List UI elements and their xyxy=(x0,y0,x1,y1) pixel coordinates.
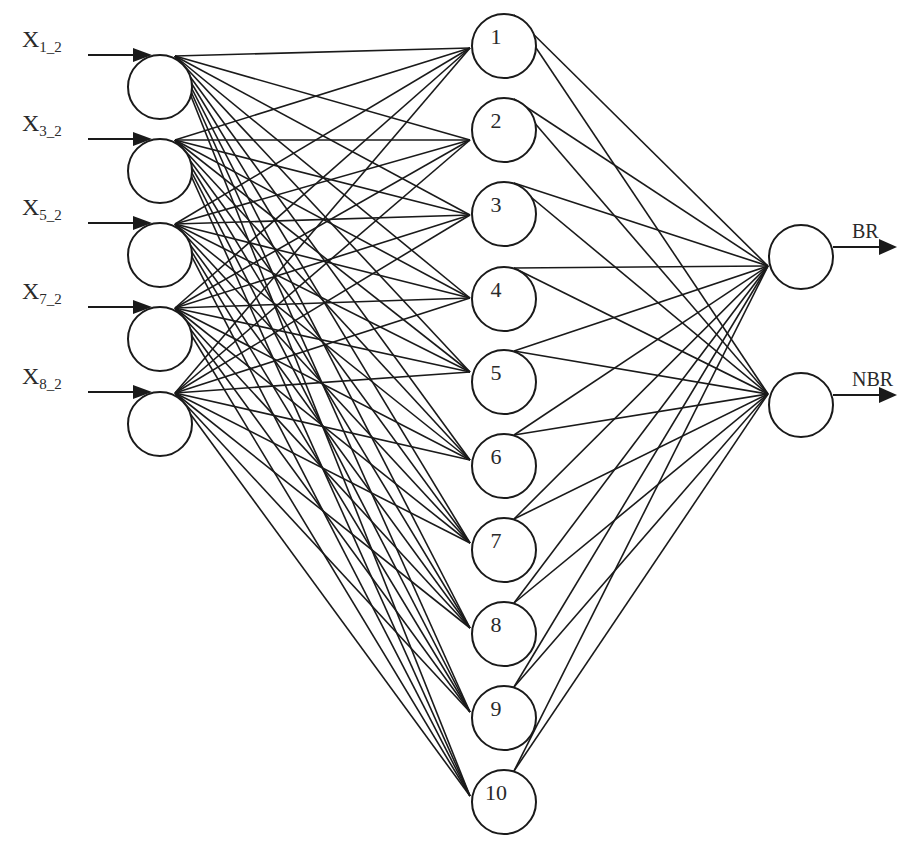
edge-hidden-5-nbr xyxy=(514,351,768,394)
edge-hidden-2-br xyxy=(514,99,768,266)
edge-input-5-hidden-8 xyxy=(175,393,470,628)
hidden-node-label: 2 xyxy=(491,108,502,133)
edge-hidden-3-br xyxy=(514,183,768,266)
edge-hidden-9-nbr xyxy=(514,394,768,687)
input-node-x1_2 xyxy=(128,55,192,119)
input-label-main: X xyxy=(22,110,39,136)
input-label-main: X xyxy=(22,194,39,220)
input-label-subscript: 3_2 xyxy=(39,123,62,139)
input-label-x1_2: X1_2 xyxy=(22,26,62,55)
hidden-node-label: 4 xyxy=(491,277,502,302)
edge-input-5-hidden-9 xyxy=(175,393,470,712)
hidden-node-label: 1 xyxy=(491,24,502,49)
edge-input-3-hidden-1 xyxy=(175,48,470,224)
edge-hidden-7-br xyxy=(514,266,768,519)
edge-input-2-hidden-1 xyxy=(175,48,470,140)
edge-hidden-8-nbr xyxy=(514,394,768,603)
output-label-nbr: NBR xyxy=(852,368,894,390)
hidden-node-label: 6 xyxy=(491,444,502,469)
edge-input-5-hidden-10 xyxy=(175,393,470,796)
hidden-output-connections xyxy=(514,15,768,771)
edge-input-2-hidden-5 xyxy=(175,140,470,372)
edge-hidden-4-nbr xyxy=(514,268,768,394)
input-label-x7_2: X7_2 xyxy=(22,278,62,307)
hidden-layer: 12345678910 xyxy=(472,14,536,834)
hidden-node-1 xyxy=(472,14,536,78)
input-label-subscript: 5_2 xyxy=(39,207,62,223)
input-label-subscript: 7_2 xyxy=(39,291,62,307)
input-label-x5_2: X5_2 xyxy=(22,194,62,223)
edge-hidden-1-nbr xyxy=(514,15,768,394)
input-label-main: X xyxy=(22,26,39,52)
edge-input-5-hidden-4 xyxy=(175,298,470,393)
edge-input-5-hidden-7 xyxy=(175,393,470,543)
hidden-node-5 xyxy=(472,350,536,414)
hidden-node-8 xyxy=(472,602,536,666)
edge-hidden-10-nbr xyxy=(514,394,768,771)
neural-network-diagram: X1_2X3_2X5_2X7_2X8_2 12345678910 BRNBR xyxy=(0,0,916,848)
hidden-node-3 xyxy=(472,182,536,246)
hidden-node-label: 10 xyxy=(485,780,507,805)
output-label-br: BR xyxy=(852,220,879,242)
input-node-x8_2 xyxy=(128,392,192,456)
hidden-node-4 xyxy=(472,267,536,331)
edge-input-5-hidden-3 xyxy=(175,215,470,393)
edge-input-4-hidden-5 xyxy=(175,308,470,372)
edge-hidden-3-nbr xyxy=(514,183,768,394)
hidden-node-2 xyxy=(472,98,536,162)
edge-input-1-hidden-6 xyxy=(175,56,470,460)
arrow-right-icon xyxy=(879,239,897,255)
edge-input-1-hidden-2 xyxy=(175,56,470,140)
hidden-node-7 xyxy=(472,518,536,582)
edge-input-1-hidden-1 xyxy=(175,48,470,56)
hidden-node-6 xyxy=(472,434,536,498)
edge-hidden-9-br xyxy=(514,266,768,687)
output-node-br xyxy=(769,225,833,289)
input-node-x7_2 xyxy=(128,307,192,371)
input-hidden-connections xyxy=(175,48,470,796)
input-node-x5_2 xyxy=(128,223,192,287)
input-label-x3_2: X3_2 xyxy=(22,110,62,139)
hidden-node-label: 5 xyxy=(491,360,502,385)
input-node-x3_2 xyxy=(128,139,192,203)
edge-hidden-1-br xyxy=(514,15,768,266)
edge-hidden-10-br xyxy=(514,266,768,771)
hidden-node-label: 7 xyxy=(491,528,502,553)
hidden-node-label: 9 xyxy=(491,696,502,721)
hidden-node-label: 8 xyxy=(491,612,502,637)
output-layer: BRNBR xyxy=(769,220,894,437)
edge-hidden-6-nbr xyxy=(514,394,768,435)
input-label-x8_2: X8_2 xyxy=(22,363,62,392)
edge-hidden-7-nbr xyxy=(514,394,768,519)
output-node-nbr xyxy=(769,373,833,437)
input-label-main: X xyxy=(22,363,39,389)
hidden-node-9 xyxy=(472,686,536,750)
edge-hidden-4-br xyxy=(514,266,768,268)
edge-input-5-hidden-6 xyxy=(175,393,470,460)
input-label-subscript: 1_2 xyxy=(39,39,62,55)
hidden-node-label: 3 xyxy=(491,192,502,217)
input-label-subscript: 8_2 xyxy=(39,376,62,392)
edge-hidden-8-br xyxy=(514,266,768,603)
edge-input-4-hidden-6 xyxy=(175,308,470,460)
input-label-main: X xyxy=(22,278,39,304)
